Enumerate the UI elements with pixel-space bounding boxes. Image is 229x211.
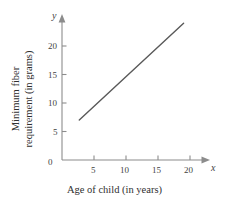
y-axis-variable-label: y	[52, 11, 56, 21]
y-axis-title: Minimum fiber requirement (in grams)	[9, 14, 35, 184]
x-axis-variable-label: x	[211, 163, 215, 173]
x-tick-label-15: 15	[152, 166, 161, 175]
y-tick-label-15: 15	[48, 71, 57, 80]
chart-container: 0 5 10 15 20 5 10 15 20 y x Age of child…	[0, 0, 229, 211]
data-series-line	[79, 23, 183, 120]
y-tick-label-5: 5	[53, 128, 58, 137]
origin-tick-label: 0	[48, 158, 53, 167]
y-axis-arrow-icon	[59, 14, 66, 23]
x-axis-arrow-icon	[202, 157, 211, 164]
y-tick-label-10: 10	[48, 99, 57, 108]
x-tick-label-10: 10	[120, 166, 129, 175]
y-axis-title-line-1: Minimum fiber	[9, 14, 22, 184]
x-axis-title: Age of child (in years)	[0, 184, 229, 195]
y-axis-title-line-2: requirement (in grams)	[22, 14, 35, 184]
x-tick-label-5: 5	[91, 166, 96, 175]
y-tick-label-20: 20	[48, 42, 57, 51]
x-tick-label-20: 20	[184, 166, 193, 175]
